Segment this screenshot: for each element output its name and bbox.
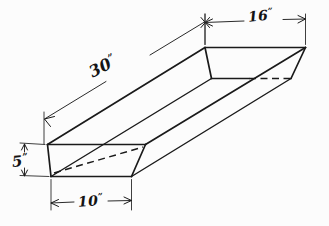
near-face-hidden-diagonal — [54, 147, 143, 173]
drawing-canvas: 30” 16” 5” 10” — [0, 0, 329, 226]
dimension-label-bottom-width-value: 10 — [77, 192, 98, 209]
dimension-label-depth-unit: ” — [22, 150, 28, 161]
top-front-rim-edge — [146, 48, 306, 145]
dim10-line-left-segment — [51, 202, 74, 203]
technical-drawing-svg — [0, 0, 329, 226]
near-face-left-slant-edge — [48, 145, 52, 177]
dimension-label-bottom-width: 10” — [77, 192, 103, 208]
dim30-line-upper-segment — [150, 22, 205, 55]
far-face-left-slant-edge — [205, 48, 212, 79]
dim10-line-right-segment — [108, 201, 132, 202]
dimension-label-depth: 5” — [11, 151, 29, 170]
dimension-label-top-width-unit: ” — [267, 6, 273, 16]
far-end-face — [205, 48, 306, 79]
dimension-30-inch — [44, 14, 205, 144]
floor-front-edge — [132, 79, 292, 177]
dimension-label-top-width: 16” — [247, 7, 273, 24]
dim16-line-left-segment — [205, 21, 244, 23]
dim5-extension-top — [20, 143, 45, 145]
dim16-line-right-segment — [283, 19, 306, 20]
dimension-label-bottom-width-unit: ” — [97, 191, 103, 201]
dimension-label-top-width-value: 16 — [247, 7, 268, 25]
